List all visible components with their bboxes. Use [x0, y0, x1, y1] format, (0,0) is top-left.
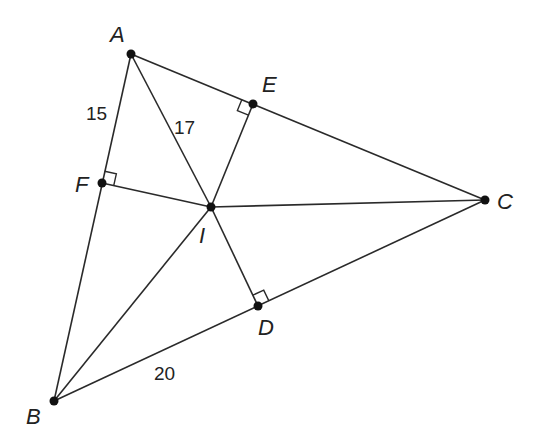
label-e: E — [262, 72, 277, 97]
measure-bd: 20 — [154, 363, 175, 384]
label-f: F — [75, 172, 90, 197]
label-d: D — [258, 315, 274, 340]
point-b — [50, 397, 59, 406]
point-c — [481, 196, 490, 205]
geometry-diagram: ABCDEFI 151720 — [0, 0, 542, 447]
measure-ai: 17 — [174, 117, 195, 138]
label-a: A — [108, 22, 125, 47]
label-b: B — [26, 404, 41, 429]
diagram-canvas: ABCDEFI 151720 — [0, 0, 542, 447]
segment-ie — [211, 104, 253, 207]
segment-id — [211, 207, 258, 306]
point-labels: ABCDEFI — [26, 22, 513, 429]
segment-bi — [54, 207, 211, 401]
measure-af: 15 — [86, 103, 107, 124]
point-f — [98, 179, 107, 188]
point-d — [254, 302, 263, 311]
segment-ci — [211, 200, 485, 207]
segment-if — [102, 183, 211, 207]
segments — [54, 54, 485, 401]
segment-bc — [54, 200, 485, 401]
point-e — [249, 100, 258, 109]
point-i — [207, 203, 216, 212]
segment-ai — [131, 54, 211, 207]
label-i: I — [199, 223, 205, 248]
point-a — [127, 50, 136, 59]
label-c: C — [497, 189, 513, 214]
points — [50, 50, 490, 406]
